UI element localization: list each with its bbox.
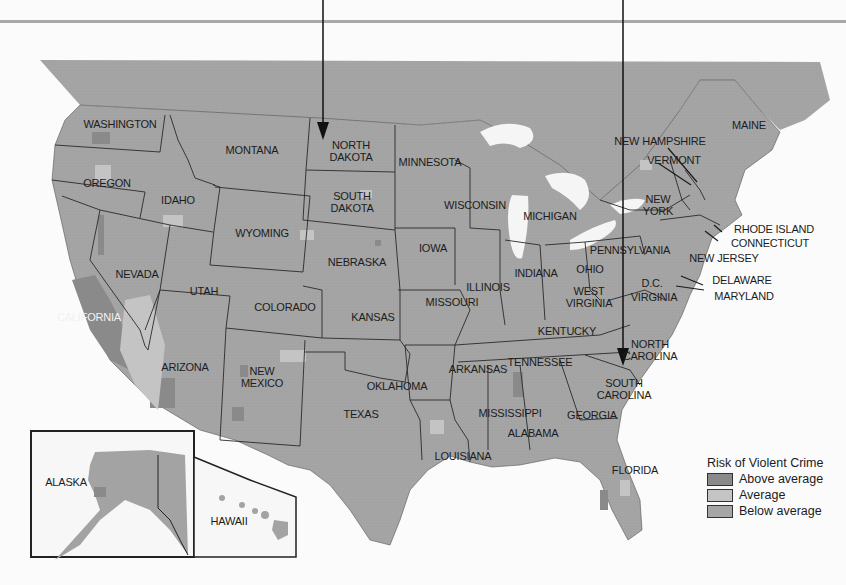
state-label-south-dakota: SOUTHDAKOTA bbox=[330, 190, 373, 214]
state-label-minnesota: MINNESOTA bbox=[399, 156, 462, 168]
legend-swatch-average bbox=[707, 489, 733, 502]
state-label-louisiana: LOUISIANA bbox=[435, 450, 492, 462]
state-label-indiana: INDIANA bbox=[514, 267, 557, 279]
state-label-washington: WASHINGTON bbox=[83, 118, 156, 130]
state-label-montana: MONTANA bbox=[226, 144, 279, 156]
state-label-oregon: OREGON bbox=[83, 177, 131, 189]
state-label-ohio: OHIO bbox=[576, 263, 603, 275]
state-label-nebraska: NEBRASKA bbox=[328, 256, 386, 268]
legend: Risk of Violent Crime Above average Aver… bbox=[707, 456, 823, 519]
state-label-hawaii: HAWAII bbox=[210, 515, 247, 527]
state-label-south-carolina: SOUTHCAROLINA bbox=[597, 377, 652, 401]
state-label-alabama: ALABAMA bbox=[508, 427, 559, 439]
state-label-tennessee: TENNESSEE bbox=[508, 356, 573, 368]
legend-label: Average bbox=[739, 488, 785, 502]
state-label-north-dakota: NORTHDAKOTA bbox=[329, 139, 372, 163]
state-label-kentucky: KENTUCKY bbox=[538, 325, 596, 337]
state-label-illinois: ILLINOIS bbox=[466, 281, 510, 293]
callout-label-connecticut: CONNECTICUT bbox=[731, 237, 809, 249]
legend-swatch-above-average bbox=[707, 473, 733, 486]
state-label-oklahoma: OKLAHOMA bbox=[367, 380, 428, 392]
state-label-utah: UTAH bbox=[190, 285, 218, 297]
crime-risk-map: WASHINGTONOREGONIDAHOMONTANAWYOMINGNEVAD… bbox=[0, 0, 846, 585]
state-label-idaho: IDAHO bbox=[161, 194, 195, 206]
state-label-kansas: KANSAS bbox=[351, 311, 394, 323]
callout-label-new-hampshire: NEW HAMPSHIRE bbox=[614, 135, 706, 147]
legend-label: Above average bbox=[739, 472, 823, 486]
state-label-wisconsin: WISCONSIN bbox=[444, 199, 506, 211]
legend-item-below-average: Below average bbox=[707, 503, 823, 519]
state-label-michigan: MICHIGAN bbox=[523, 210, 576, 222]
state-label-iowa: IOWA bbox=[419, 242, 447, 254]
callout-label-new-jersey: NEW JERSEY bbox=[689, 252, 759, 264]
state-label-north-carolina: NORTHCAROLINA bbox=[623, 338, 678, 362]
state-label-california: CALIFORNIA bbox=[57, 311, 121, 323]
state-label-new-york: NEWYORK bbox=[643, 193, 673, 217]
state-label-alaska: ALASKA bbox=[45, 476, 87, 488]
state-label-georgia: GEORGIA bbox=[567, 409, 617, 421]
state-label-colorado: COLORADO bbox=[254, 301, 315, 313]
state-label-wyoming: WYOMING bbox=[235, 227, 289, 239]
state-label-virginia: VIRGINIA bbox=[631, 291, 678, 303]
state-label-arkansas: ARKANSAS bbox=[449, 363, 507, 375]
legend-swatch-below-average bbox=[707, 505, 733, 518]
state-label-maine: MAINE bbox=[732, 119, 766, 131]
state-label-d-c: D.C. bbox=[641, 277, 662, 289]
callout-label-rhode-island: RHODE ISLAND bbox=[734, 223, 814, 235]
state-label-texas: TEXAS bbox=[343, 408, 378, 420]
legend-item-above-average: Above average bbox=[707, 471, 823, 487]
legend-item-average: Average bbox=[707, 487, 823, 503]
state-label-mississippi: MISSISSIPPI bbox=[478, 407, 541, 419]
legend-title: Risk of Violent Crime bbox=[707, 456, 823, 470]
state-label-nevada: NEVADA bbox=[115, 268, 158, 280]
state-label-new-mexico: NEWMEXICO bbox=[241, 365, 283, 389]
callout-label-delaware: DELAWARE bbox=[712, 274, 771, 286]
state-label-west-virginia: WESTVIRGINIA bbox=[566, 285, 613, 309]
callout-label-vermont: VERMONT bbox=[647, 154, 701, 166]
state-label-pennsylvania: PENNSYLVANIA bbox=[590, 244, 670, 256]
legend-label: Below average bbox=[739, 504, 822, 518]
state-label-missouri: MISSOURI bbox=[426, 296, 479, 308]
state-label-florida: FLORIDA bbox=[612, 464, 658, 476]
callout-label-maryland: MARYLAND bbox=[714, 290, 773, 302]
state-label-arizona: ARIZONA bbox=[161, 361, 209, 373]
